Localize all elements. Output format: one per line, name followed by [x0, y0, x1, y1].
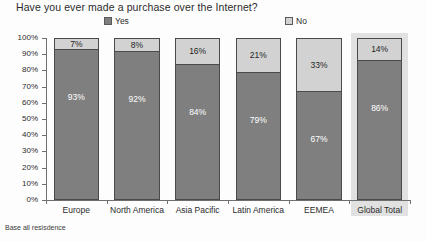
- x-axis-tick-mark: [289, 200, 290, 204]
- x-axis-category-label: North America: [107, 205, 168, 215]
- x-axis-category-label: Latin America: [228, 205, 289, 215]
- y-axis-tick-label: 0%: [26, 195, 38, 204]
- stacked-bar[interactable]: 21%79%: [236, 38, 281, 200]
- x-axis-category-label: Asia Pacific: [167, 205, 228, 215]
- stacked-bar[interactable]: 7%93%: [54, 38, 99, 200]
- bar-segment-yes[interactable]: 86%: [358, 61, 401, 199]
- bar-segment-no[interactable]: 14%: [358, 39, 401, 61]
- bar-value-label-no: 16%: [189, 47, 206, 56]
- bar-value-label-no: 21%: [250, 51, 267, 60]
- bar-value-label-no: 7%: [70, 40, 82, 49]
- bar-segment-yes[interactable]: 79%: [237, 73, 280, 199]
- bar-group[interactable]: 7%93%: [54, 38, 99, 200]
- legend-label-yes: Yes: [115, 16, 129, 26]
- bar-group[interactable]: 21%79%: [236, 38, 281, 200]
- bar-segment-yes[interactable]: 84%: [176, 65, 219, 199]
- bar-segment-yes[interactable]: 93%: [55, 50, 98, 199]
- bar-value-label-no: 14%: [371, 45, 388, 54]
- y-axis-tick-label: 100%: [18, 33, 38, 42]
- x-axis-tick-mark: [228, 200, 229, 204]
- x-axis-tick-mark: [107, 200, 108, 204]
- x-axis-tick-mark: [349, 200, 350, 204]
- bar-segment-no[interactable]: 21%: [237, 39, 280, 73]
- bar-value-label-no: 8%: [131, 41, 143, 50]
- legend-label-no: No: [296, 16, 307, 26]
- bar-segment-no[interactable]: 7%: [55, 39, 98, 50]
- x-axis-category-label: EEMEA: [289, 205, 350, 215]
- y-axis-tick-label: 10%: [22, 179, 38, 188]
- chart-footnote: Base all resisdence: [5, 224, 66, 231]
- x-axis-category-label: Europe: [46, 205, 107, 215]
- y-axis-tick-label: 50%: [22, 114, 38, 123]
- bar-segment-no[interactable]: 33%: [297, 39, 340, 92]
- y-axis-tick-label: 60%: [22, 98, 38, 107]
- legend-item-no: No: [285, 16, 307, 26]
- y-axis-tick-label: 80%: [22, 65, 38, 74]
- bar-value-label-yes: 93%: [68, 93, 85, 102]
- y-axis-tick-label: 70%: [22, 82, 38, 91]
- x-axis-tick-mark: [410, 200, 411, 204]
- bar-value-label-yes: 84%: [189, 108, 206, 117]
- bar-value-label-yes: 67%: [310, 135, 327, 144]
- bar-value-label-yes: 79%: [250, 116, 267, 125]
- legend-swatch-no-icon: [285, 17, 293, 25]
- bar-group[interactable]: 8%92%: [114, 38, 159, 200]
- bar-segment-yes[interactable]: 92%: [115, 52, 158, 199]
- chart-legend: Yes No: [0, 16, 427, 30]
- plot-area: 7%93%8%92%16%84%21%79%33%67%14%86%: [46, 38, 410, 200]
- chart-container: Have you ever made a purchase over the I…: [0, 0, 427, 242]
- stacked-bar[interactable]: 8%92%: [114, 38, 159, 200]
- bar-segment-no[interactable]: 16%: [176, 39, 219, 65]
- x-axis-tick-mark: [167, 200, 168, 204]
- y-axis-tick-label: 30%: [22, 146, 38, 155]
- bar-segment-no[interactable]: 8%: [115, 39, 158, 52]
- stacked-bar[interactable]: 33%67%: [296, 38, 341, 200]
- x-axis-category-label: Global Total: [349, 205, 410, 215]
- bar-group[interactable]: 14%86%: [357, 38, 402, 200]
- bar-segment-yes[interactable]: 67%: [297, 92, 340, 199]
- stacked-bar[interactable]: 16%84%: [175, 38, 220, 200]
- bar-group[interactable]: 33%67%: [296, 38, 341, 200]
- stacked-bar[interactable]: 14%86%: [357, 38, 402, 200]
- y-axis-tick-label: 20%: [22, 163, 38, 172]
- legend-item-yes: Yes: [104, 16, 129, 26]
- legend-swatch-yes-icon: [104, 17, 112, 25]
- bar-value-label-yes: 92%: [128, 95, 145, 104]
- bar-value-label-yes: 86%: [371, 104, 388, 113]
- y-axis-tick-label: 90%: [22, 49, 38, 58]
- bar-value-label-no: 33%: [310, 61, 327, 70]
- x-axis-tick-mark: [46, 200, 47, 204]
- bar-group[interactable]: 16%84%: [175, 38, 220, 200]
- chart-title: Have you ever made a purchase over the I…: [16, 1, 258, 13]
- y-axis-tick-label: 40%: [22, 130, 38, 139]
